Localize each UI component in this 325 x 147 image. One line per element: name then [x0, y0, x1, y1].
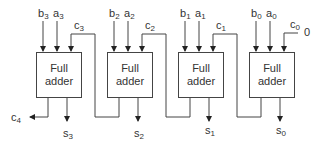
label-a0: a0 [266, 8, 277, 21]
full-adder-2: Full adder [107, 52, 153, 98]
full-adder-0: Full adder [249, 52, 295, 98]
full-adder-3: Full adder [36, 52, 82, 98]
label-carry-in-zero: 0 [304, 27, 310, 38]
adder-label-line1: Full [263, 62, 281, 75]
label-b3: b3 [38, 8, 49, 21]
label-a2: a2 [124, 8, 135, 21]
adder-label-line1: Full [50, 62, 68, 75]
label-b2: b2 [109, 8, 120, 21]
label-a1: a1 [195, 8, 206, 21]
label-c1: c1 [216, 20, 226, 33]
adder-label-line2: adder [258, 75, 286, 88]
label-c0: c0 [290, 19, 300, 32]
label-b0: b0 [251, 8, 262, 21]
label-c3: c3 [74, 20, 84, 33]
adder-label-line1: Full [121, 62, 139, 75]
label-s3: s3 [63, 128, 73, 141]
adder-label-line2: adder [45, 75, 73, 88]
adder-label-line2: adder [116, 75, 144, 88]
adder-label-line1: Full [192, 62, 210, 75]
label-s2: s2 [134, 128, 144, 141]
label-b1: b1 [180, 8, 191, 21]
label-s0: s0 [276, 125, 286, 138]
label-c2: c2 [145, 20, 155, 33]
label-c4: c4 [11, 112, 21, 125]
label-a3: a3 [53, 8, 64, 21]
label-s1: s1 [205, 125, 215, 138]
adder-label-line2: adder [187, 75, 215, 88]
full-adder-1: Full adder [178, 52, 224, 98]
